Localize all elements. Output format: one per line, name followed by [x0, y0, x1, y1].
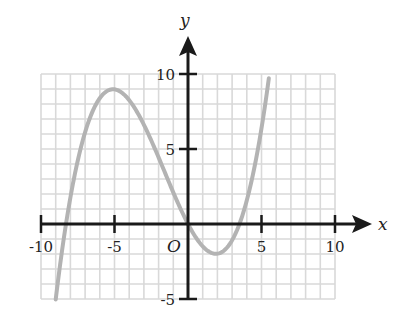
y-axis-label: y	[179, 10, 190, 30]
y-tick-label: 10	[156, 66, 175, 84]
axes	[41, 36, 372, 299]
function-curve	[56, 78, 269, 299]
x-tick-label: -5	[107, 238, 122, 256]
x-tick-label: 5	[257, 238, 267, 256]
y-tick-label: -5	[160, 291, 175, 309]
x-tick-label: 10	[325, 238, 344, 256]
origin-label: O	[167, 236, 181, 256]
x-axis-label: x	[378, 214, 388, 234]
x-tick-label: -10	[29, 238, 53, 256]
function-graph: x y O -10-5510105-5	[0, 0, 411, 326]
y-tick-label: 5	[165, 141, 175, 159]
